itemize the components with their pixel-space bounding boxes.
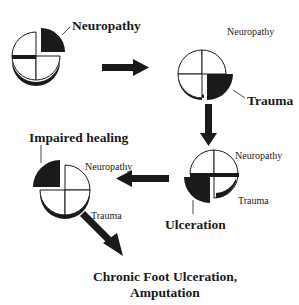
arrow-right xyxy=(102,59,149,76)
arrow-left xyxy=(116,170,169,187)
label-stage3-ulceration: Ulceration xyxy=(165,218,226,232)
label-stage3-trauma: Trauma xyxy=(238,196,269,206)
label-stage2-trauma: Trauma xyxy=(247,94,293,108)
label-stage4-trauma: Trauma xyxy=(91,211,122,221)
label-stage4-neuropathy: Neuropathy xyxy=(85,162,132,172)
label-outcome-line1: Chronic Foot Ulceration, xyxy=(80,270,250,284)
label-stage2-neuropathy: Neuropathy xyxy=(227,27,274,37)
label-stage1-neuropathy: Neuropathy xyxy=(72,19,141,33)
pie-stage-3 xyxy=(184,150,239,214)
pie-stage-4 xyxy=(33,145,90,219)
label-stage4-impaired-healing: Impaired healing xyxy=(29,131,128,145)
arrow-down xyxy=(200,104,217,146)
pie-stage-2 xyxy=(178,50,245,100)
label-outcome-line2: Amputation xyxy=(80,286,250,300)
pie-stage-1 xyxy=(12,27,70,86)
label-stage3-neuropathy: Neuropathy xyxy=(235,151,282,161)
